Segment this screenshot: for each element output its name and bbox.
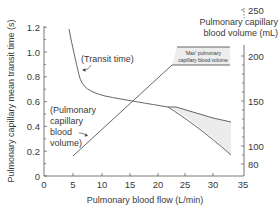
svg-text:15: 15 bbox=[125, 179, 136, 190]
annotation-volume-line3: blood bbox=[50, 127, 72, 137]
svg-text:80: 80 bbox=[248, 159, 259, 170]
svg-text:1.0: 1.0 bbox=[27, 47, 40, 58]
annotation-max-volume-line1: 'Max' pulmonary bbox=[185, 50, 222, 56]
svg-text:200: 200 bbox=[248, 51, 264, 62]
svg-text:150: 150 bbox=[248, 96, 264, 107]
svg-text:35: 35 bbox=[238, 179, 249, 190]
svg-text:0: 0 bbox=[35, 171, 40, 182]
annotation-transit-time: (Transit time) bbox=[81, 54, 134, 64]
annotation-max-volume-line2: capillary blood volume bbox=[178, 57, 228, 63]
svg-text:0.6: 0.6 bbox=[27, 96, 40, 107]
svg-text:0.4: 0.4 bbox=[27, 121, 40, 132]
right-y-axis-title-line2: blood volume (mL) bbox=[203, 28, 278, 38]
chart: 0 0.2 0.4 0.6 0.8 1.0 1.2 0 5 10 15 20 2… bbox=[0, 0, 280, 209]
annotation-volume-line1: (Pulmonary bbox=[50, 105, 97, 115]
svg-text:0.2: 0.2 bbox=[27, 146, 40, 157]
x-axis-title: Pulmonary blood flow (L/min) bbox=[87, 195, 204, 205]
annotation-volume-arrow bbox=[79, 133, 86, 135]
left-y-tick-labels: 0 0.2 0.4 0.6 0.8 1.0 1.2 bbox=[27, 22, 40, 182]
svg-text:100: 100 bbox=[248, 141, 264, 152]
x-tick-labels: 0 5 10 15 20 25 30 35 bbox=[41, 179, 248, 190]
x-ticks bbox=[73, 173, 213, 176]
annotation-volume-line2: capillary bbox=[50, 116, 84, 126]
svg-text:250: 250 bbox=[248, 5, 264, 16]
svg-text:0.8: 0.8 bbox=[27, 71, 40, 82]
left-y-ticks bbox=[44, 27, 47, 176]
svg-text:10: 10 bbox=[97, 179, 108, 190]
left-y-axis-title: Pulmonary capillary mean transit time (s… bbox=[6, 19, 16, 182]
svg-text:25: 25 bbox=[180, 179, 191, 190]
svg-text:20: 20 bbox=[153, 179, 164, 190]
annotation-volume-line4: volume) bbox=[50, 138, 82, 148]
right-y-axis-title-line1: Pulmonary capillary bbox=[199, 17, 278, 27]
svg-text:5: 5 bbox=[70, 179, 75, 190]
svg-text:30: 30 bbox=[208, 179, 219, 190]
svg-text:0: 0 bbox=[41, 179, 46, 190]
svg-text:1.2: 1.2 bbox=[27, 22, 40, 33]
annotation-transit-arrowhead bbox=[82, 68, 86, 71]
